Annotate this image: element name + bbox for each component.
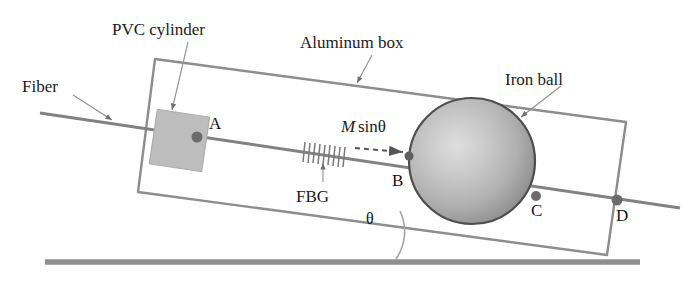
label-aluminum-box: Aluminum box: [300, 33, 404, 52]
diagram-canvas: PVC cylinder Aluminum box Fiber Iron bal…: [0, 0, 691, 282]
point-d-dot: [612, 195, 623, 206]
label-point-b: B: [392, 171, 403, 190]
label-theta: θ: [366, 210, 374, 227]
theta-arc-path: [396, 211, 405, 259]
fbg-grating: [303, 142, 345, 167]
leader-fiber: [73, 95, 112, 120]
force-arrow-line: [355, 148, 403, 152]
angle-arc: [396, 211, 405, 259]
label-pvc-cylinder: PVC cylinder: [112, 20, 205, 39]
leader-aluminum-box: [357, 55, 372, 83]
iron-ball-sphere: [409, 98, 535, 224]
label-force-sin-theta: sinθ: [358, 117, 386, 136]
label-fbg: FBG: [296, 187, 329, 206]
point-a-dot: [192, 132, 203, 143]
leader-pvc-cylinder: [172, 42, 188, 110]
point-c-dot: [531, 191, 541, 201]
iron-ball: [409, 98, 535, 224]
label-point-a: A: [209, 114, 222, 133]
point-b-dot: [405, 152, 414, 161]
label-point-d: D: [616, 206, 628, 225]
label-point-c: C: [531, 201, 542, 220]
label-iron-ball: Iron ball: [505, 70, 563, 89]
label-fiber: Fiber: [22, 77, 58, 96]
label-force-m: M: [340, 117, 356, 136]
physics-diagram-figure: PVC cylinder Aluminum box Fiber Iron bal…: [0, 0, 691, 282]
force-arrow: [355, 148, 403, 152]
